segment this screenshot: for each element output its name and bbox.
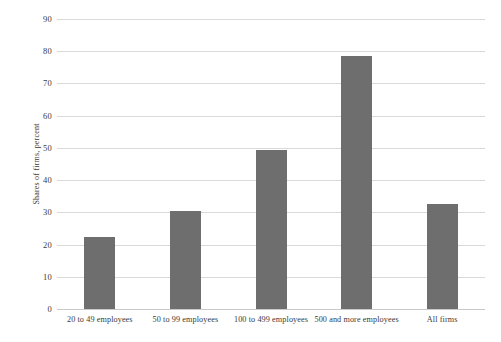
y-axis-tick-label: 30 xyxy=(6,208,52,217)
y-axis-tick-label: 0 xyxy=(6,305,52,314)
y-axis-tick-label: 40 xyxy=(6,176,52,185)
x-axis-tick-label: 100 to 499 employees xyxy=(234,315,308,324)
x-axis-tick-label: 50 to 99 employees xyxy=(153,315,219,324)
bar xyxy=(256,150,287,309)
plot-area xyxy=(57,19,485,309)
gridline xyxy=(57,309,485,310)
x-axis-tick-labels: 20 to 49 employees50 to 99 employees100 … xyxy=(57,312,485,338)
bar xyxy=(341,56,372,309)
gridline xyxy=(57,148,485,149)
y-axis-tick-label: 20 xyxy=(6,240,52,249)
y-axis-tick-label: 10 xyxy=(6,273,52,282)
bar-chart: Shares of firms, percent 010203040506070… xyxy=(0,0,501,342)
gridline xyxy=(57,83,485,84)
gridline xyxy=(57,116,485,117)
gridline xyxy=(57,51,485,52)
x-axis-tick-label: All firms xyxy=(427,315,458,324)
bar xyxy=(170,211,201,309)
bar xyxy=(427,204,458,309)
bar xyxy=(84,237,115,310)
y-axis-tick-label: 90 xyxy=(6,15,52,24)
y-axis-tick-label: 60 xyxy=(6,111,52,120)
y-axis-tick-labels: 0102030405060708090 xyxy=(0,19,52,309)
y-axis-tick-label: 70 xyxy=(6,79,52,88)
x-axis-tick-label: 500 and more employees xyxy=(314,315,398,324)
gridline xyxy=(57,19,485,20)
x-axis-tick-label: 20 to 49 employees xyxy=(67,315,133,324)
y-axis-tick-label: 50 xyxy=(6,144,52,153)
y-axis-tick-label: 80 xyxy=(6,47,52,56)
